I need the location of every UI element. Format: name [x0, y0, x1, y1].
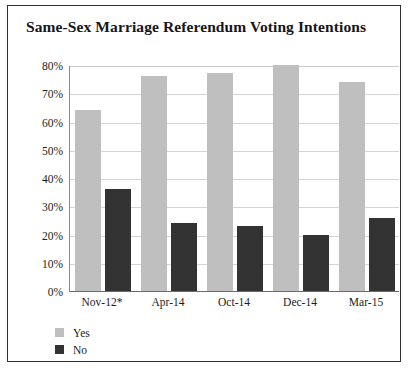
y-axis-tick-label: 50%	[8, 145, 63, 157]
chart-frame: Same-Sex Marriage Referendum Voting Inte…	[7, 5, 401, 362]
legend-label: Yes	[73, 327, 90, 339]
x-axis-tick-label: Dec-14	[283, 296, 317, 308]
y-axis-tick-label: 40%	[8, 173, 63, 185]
x-axis-tick-label: Apr-14	[152, 296, 185, 308]
bars-layer	[70, 66, 399, 291]
bar-yes-Dec14	[273, 65, 299, 291]
chart-legend: YesNo	[55, 324, 90, 358]
bar-no-Dec14	[303, 235, 329, 292]
x-axis-tick-label: Oct-14	[218, 296, 250, 308]
y-axis-tick-label: 70%	[8, 88, 63, 100]
bar-no-Mar15	[369, 218, 395, 291]
chart-figure: Same-Sex Marriage Referendum Voting Inte…	[0, 0, 408, 368]
bar-yes-Nov12	[75, 110, 101, 291]
plot-area	[69, 66, 399, 292]
y-axis-tick-label: 30%	[8, 201, 63, 213]
y-axis-tick-labels: 80%70%60%50%40%30%20%10%0%	[8, 66, 63, 292]
legend-swatch-icon	[55, 328, 64, 337]
x-axis-tick-label: Mar-15	[349, 296, 383, 308]
x-axis-tick-label: Nov-12*	[82, 296, 123, 308]
bar-no-Apr14	[171, 223, 197, 291]
bar-group	[202, 66, 268, 291]
y-axis-tick-label: 10%	[8, 258, 63, 270]
legend-label: No	[73, 344, 87, 356]
y-axis-tick-label: 0%	[8, 286, 63, 298]
bar-no-Oct14	[237, 226, 263, 291]
y-axis-tick-label: 60%	[8, 117, 63, 129]
bar-yes-Mar15	[339, 82, 365, 291]
bar-group	[268, 66, 334, 291]
bar-yes-Apr14	[141, 76, 167, 291]
legend-item-yes[interactable]: Yes	[55, 324, 90, 341]
bar-group	[70, 66, 136, 291]
bar-group	[334, 66, 400, 291]
bar-no-Nov12	[105, 189, 131, 291]
legend-swatch-icon	[55, 345, 64, 354]
y-axis-tick-label: 80%	[8, 60, 63, 72]
bar-group	[136, 66, 202, 291]
legend-item-no[interactable]: No	[55, 341, 90, 358]
chart-title: Same-Sex Marriage Referendum Voting Inte…	[26, 18, 366, 36]
bar-yes-Oct14	[207, 73, 233, 291]
x-axis-tick-labels: Nov-12*Apr-14Oct-14Dec-14Mar-15	[69, 296, 399, 316]
y-axis-tick-label: 20%	[8, 230, 63, 242]
